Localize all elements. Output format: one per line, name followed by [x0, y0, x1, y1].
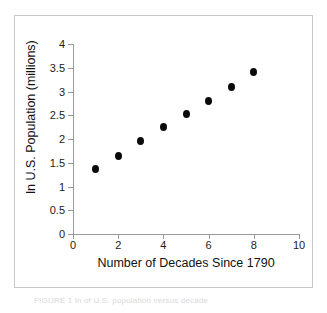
y-tick-mark	[68, 139, 73, 140]
x-tick-label: 8	[251, 240, 257, 251]
x-tick-label: 0	[70, 240, 76, 251]
y-axis-title: ln U.S. Population (millions)	[24, 17, 38, 217]
y-tick-mark	[68, 115, 73, 116]
x-tick-label: 6	[206, 240, 212, 251]
x-axis-title: Number of Decades Since 1790	[73, 256, 299, 270]
y-tick-label: 0.5	[50, 205, 65, 216]
plot-area: 00.511.522.533.54 0246810	[73, 44, 299, 234]
y-tick-mark	[68, 68, 73, 69]
y-axis-line	[73, 44, 74, 234]
data-point	[92, 165, 99, 173]
figure-caption: FIGURE 1 ln of U.S. population versus de…	[34, 296, 208, 305]
y-tick-mark	[68, 44, 73, 45]
y-tick-mark	[68, 210, 73, 211]
y-tick-label: 1.5	[50, 157, 65, 168]
x-axis-line	[73, 234, 299, 235]
x-tick-label: 10	[293, 240, 305, 251]
data-point	[205, 97, 212, 105]
y-tick-label: 3.5	[50, 62, 65, 73]
y-tick-label: 2	[59, 134, 65, 145]
data-point	[137, 137, 144, 145]
y-tick-label: 3	[59, 86, 65, 97]
data-point	[250, 68, 257, 76]
data-point	[183, 110, 190, 118]
data-point	[228, 83, 235, 91]
x-tick-label: 4	[160, 240, 166, 251]
y-tick-label: 0	[59, 229, 65, 240]
y-tick-label: 1	[59, 181, 65, 192]
y-tick-mark	[68, 92, 73, 93]
y-tick-label: 4	[59, 39, 65, 50]
x-tick-label: 2	[115, 240, 121, 251]
y-tick-mark	[68, 187, 73, 188]
y-tick-label: 2.5	[50, 110, 65, 121]
figure-frame: ln U.S. Population (millions) Number of …	[14, 15, 313, 288]
data-point	[115, 152, 122, 160]
y-tick-mark	[68, 163, 73, 164]
data-point	[160, 123, 167, 131]
